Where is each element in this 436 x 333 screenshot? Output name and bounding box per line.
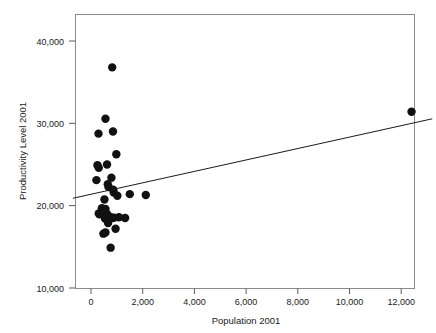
y-tick-label: 30,000	[36, 119, 64, 129]
x-axis-title: Population 2001	[212, 315, 281, 326]
trend-line	[73, 119, 432, 198]
x-axis-ticks	[91, 289, 401, 295]
y-tick-label: 10,000	[36, 284, 64, 294]
plot-frame	[76, 15, 415, 289]
data-point	[101, 115, 109, 123]
x-tick-label: 4,000	[183, 297, 206, 307]
data-point	[111, 225, 119, 233]
x-tick-label: 2,000	[131, 297, 154, 307]
data-point	[142, 191, 150, 199]
data-point	[92, 176, 100, 184]
x-tick-label: 10,000	[336, 297, 364, 307]
data-point	[126, 190, 134, 198]
x-axis-tick-labels: 0 2,000 4,000 6,000 8,000 10,000 12,000	[88, 297, 414, 307]
x-tick-label: 6,000	[235, 297, 258, 307]
data-point	[95, 164, 103, 172]
x-tick-label: 0	[88, 297, 93, 307]
data-point	[407, 108, 415, 116]
data-point	[101, 228, 109, 236]
data-point	[108, 63, 116, 71]
data-point	[94, 129, 102, 137]
x-tick-label: 12,000	[387, 297, 415, 307]
data-point	[103, 160, 111, 168]
y-axis-title: Productivity Level 2001	[17, 102, 28, 200]
y-axis-ticks	[69, 41, 76, 288]
scatter-plot-figure: 0 2,000 4,000 6,000 8,000 10,000 12,000 …	[0, 0, 436, 333]
data-point	[100, 195, 108, 203]
data-points-layer	[92, 63, 416, 252]
data-point	[112, 150, 120, 158]
data-point	[106, 243, 114, 251]
data-point	[104, 219, 112, 227]
y-tick-label: 20,000	[36, 201, 64, 211]
x-tick-label: 8,000	[287, 297, 310, 307]
y-axis-tick-labels: 40,000 30,000 20,000 10,000	[36, 37, 64, 294]
chart-canvas: 0 2,000 4,000 6,000 8,000 10,000 12,000 …	[0, 0, 436, 333]
data-point	[113, 192, 121, 200]
data-point	[109, 127, 117, 135]
y-tick-label: 40,000	[36, 37, 64, 47]
data-point	[121, 214, 129, 222]
